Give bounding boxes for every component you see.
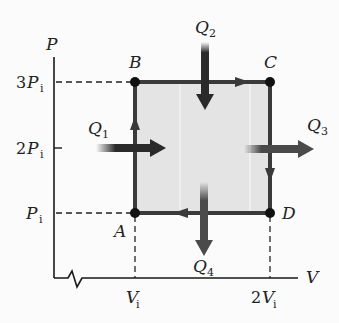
svg-text:Q: Q bbox=[193, 256, 207, 276]
pv-diagram: P V 3 P i 2 P i P i V i 2 V i B C A D Q … bbox=[0, 0, 339, 323]
y-tick-3pi: 3 P i bbox=[16, 72, 44, 95]
svg-text:P: P bbox=[25, 203, 38, 223]
svg-text:2: 2 bbox=[251, 288, 261, 307]
v-axis-label: V bbox=[306, 267, 320, 287]
x-tick-vi: V i bbox=[126, 287, 140, 311]
svg-text:i: i bbox=[273, 298, 277, 311]
svg-text:3: 3 bbox=[321, 125, 328, 138]
p-axis-label: P bbox=[45, 34, 58, 54]
svg-text:Q: Q bbox=[88, 118, 102, 138]
svg-text:3: 3 bbox=[16, 73, 26, 92]
svg-text:4: 4 bbox=[207, 266, 214, 279]
svg-text:i: i bbox=[40, 82, 44, 95]
label-q4: Q 4 bbox=[193, 256, 214, 279]
point-c bbox=[265, 77, 275, 87]
label-d: D bbox=[281, 203, 296, 223]
point-b bbox=[130, 77, 140, 87]
x-tick-2vi: 2 V i bbox=[251, 287, 277, 311]
y-tick-2pi: 2 P i bbox=[16, 138, 44, 161]
svg-text:P: P bbox=[26, 138, 39, 158]
label-q1: Q 1 bbox=[88, 118, 109, 141]
svg-text:i: i bbox=[136, 298, 140, 311]
y-tick-pi: P i bbox=[25, 203, 43, 226]
point-d bbox=[265, 208, 275, 218]
svg-text:Q: Q bbox=[307, 115, 321, 135]
v-axis-with-break bbox=[54, 271, 298, 287]
label-q2: Q 2 bbox=[195, 17, 216, 40]
svg-text:Q: Q bbox=[195, 17, 209, 37]
svg-text:2: 2 bbox=[16, 139, 26, 158]
svg-text:2: 2 bbox=[209, 27, 216, 40]
svg-text:P: P bbox=[26, 72, 39, 92]
label-c: C bbox=[264, 52, 277, 72]
svg-text:i: i bbox=[40, 148, 44, 161]
label-a: A bbox=[112, 221, 126, 241]
label-b: B bbox=[128, 52, 142, 72]
pv-diagram-canvas: P V 3 P i 2 P i P i V i 2 V i B C A D Q … bbox=[0, 0, 339, 323]
svg-text:i: i bbox=[39, 213, 43, 226]
label-q3: Q 3 bbox=[307, 115, 328, 138]
svg-text:1: 1 bbox=[102, 128, 109, 141]
point-a bbox=[130, 208, 140, 218]
